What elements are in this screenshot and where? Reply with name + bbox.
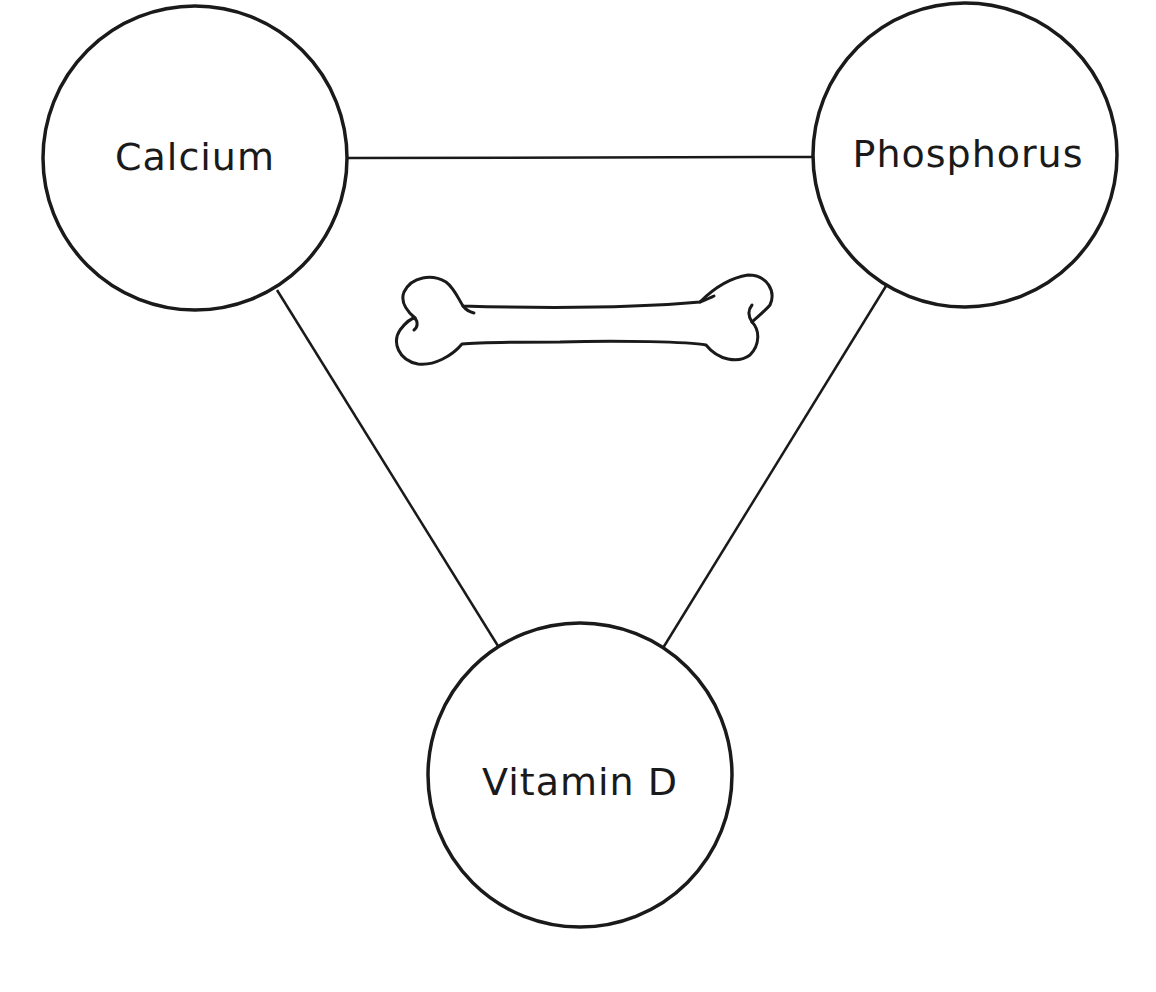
- node-vitamin-d: Vitamin D: [428, 623, 732, 927]
- calcium-label: Calcium: [115, 135, 275, 179]
- phosphorus-label: Phosphorus: [852, 132, 1083, 176]
- vitamin-d-label: Vitamin D: [482, 760, 678, 804]
- bone-icon: [397, 275, 772, 364]
- node-calcium: Calcium: [43, 6, 347, 310]
- nutrient-triangle-diagram: Calcium Phosphorus Vitamin D: [0, 0, 1156, 992]
- node-phosphorus: Phosphorus: [813, 3, 1117, 307]
- edge-calcium-phosphorus: [347, 157, 813, 158]
